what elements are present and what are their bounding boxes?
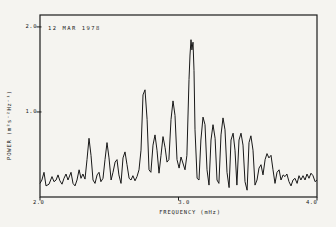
- date-annotation: 12 MAR 1978: [48, 26, 101, 32]
- x-tick-label-3: 3.0: [176, 200, 192, 206]
- y-axis-label: POWER (m²s⁻²Hz⁻¹): [7, 90, 13, 160]
- x-tick-label-2: 2.0: [33, 200, 44, 206]
- plot-frame: [40, 15, 317, 197]
- spectrum-plot-canvas: [0, 0, 336, 227]
- x-axis-label: FREQUENCY (mHz): [136, 210, 244, 216]
- y-tick-label-1: 1.0: [22, 109, 37, 115]
- spectrum-line: [40, 40, 317, 191]
- x-tick-label-4: 4.0: [306, 200, 317, 206]
- y-tick-label-2: 2.0: [22, 24, 37, 30]
- power-spectrum-figure: 12 MAR 1978 2.0 1.0 2.0 3.0 4.0 FREQUENC…: [0, 0, 336, 227]
